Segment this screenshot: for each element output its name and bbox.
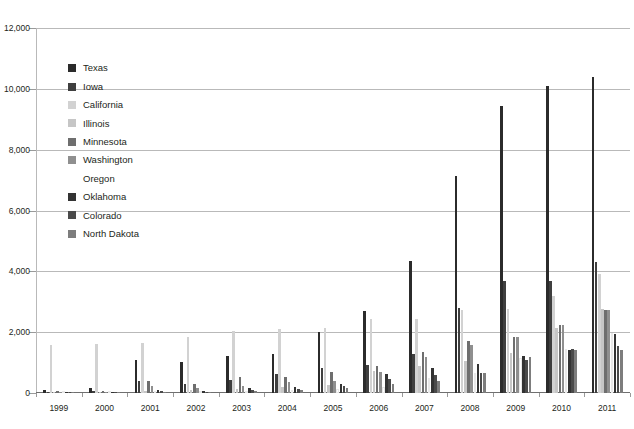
x-axis-tick: [493, 393, 494, 397]
legend-item[interactable]: Oklahoma: [68, 188, 186, 206]
legend-item[interactable]: Washington: [68, 151, 186, 169]
legend-swatch-icon: [68, 119, 76, 127]
x-axis-label: 1999: [49, 403, 68, 413]
legend-item[interactable]: Oregon: [68, 169, 186, 187]
legend-swatch-icon: [68, 138, 76, 146]
legend-item[interactable]: Texas: [68, 59, 186, 77]
legend-item-label: California: [83, 100, 123, 110]
x-axis-label: 2005: [324, 403, 343, 413]
x-axis-tick: [82, 393, 83, 397]
x-axis-label: 2000: [95, 403, 114, 413]
x-axis-label: 2010: [552, 403, 571, 413]
legend-item-label: Colorado: [83, 211, 122, 221]
legend-item-label: Texas: [83, 63, 108, 73]
legend-swatch-icon: [68, 64, 76, 72]
bar: [620, 350, 623, 393]
y-axis-label: 0: [0, 388, 30, 398]
x-axis-tick: [402, 393, 403, 397]
x-axis-tick: [539, 393, 540, 397]
x-axis-label: 2007: [415, 403, 434, 413]
legend-swatch-icon: [68, 156, 76, 164]
chart-legend: TexasIowaCaliforniaIllinoisMinnesotaWash…: [68, 59, 186, 243]
legend-item-label: Illinois: [83, 119, 109, 129]
legend-swatch-icon: [68, 83, 76, 91]
legend-item-label: Oklahoma: [83, 192, 126, 202]
legend-item[interactable]: California: [68, 96, 186, 114]
legend-item-label: Minnesota: [83, 137, 127, 147]
legend-item-label: North Dakota: [83, 229, 139, 239]
x-axis-tick: [36, 393, 37, 397]
legend-swatch-icon: [68, 211, 76, 219]
legend-swatch-icon: [68, 101, 76, 109]
x-axis-tick: [264, 393, 265, 397]
legend-swatch-icon: [68, 175, 76, 183]
x-axis-tick: [127, 393, 128, 397]
x-axis-label: 2001: [141, 403, 160, 413]
y-axis-label: 6,000: [0, 206, 30, 216]
bar-chart: 02,0004,0006,0008,00010,00012,0001999200…: [0, 0, 634, 429]
legend-item-label: Washington: [83, 155, 133, 165]
y-axis-tick: [29, 211, 36, 212]
y-axis-tick: [29, 271, 36, 272]
x-axis-tick: [630, 393, 631, 397]
x-axis-tick: [356, 393, 357, 397]
x-axis-tick: [447, 393, 448, 397]
x-axis-label: 2009: [506, 403, 525, 413]
legend-item[interactable]: North Dakota: [68, 225, 186, 243]
legend-item-label: Oregon: [83, 174, 115, 184]
y-axis-tick: [29, 89, 36, 90]
y-axis-label: 8,000: [0, 145, 30, 155]
legend-swatch-icon: [68, 193, 76, 201]
x-axis-label: 2011: [598, 403, 616, 413]
x-axis-tick: [310, 393, 311, 397]
y-axis-tick: [29, 150, 36, 151]
legend-item[interactable]: Iowa: [68, 77, 186, 95]
legend-item-label: Iowa: [83, 82, 103, 92]
y-axis-label: 10,000: [0, 84, 30, 94]
legend-item[interactable]: Illinois: [68, 114, 186, 132]
y-axis-tick: [29, 393, 36, 394]
x-axis-label: 2008: [461, 403, 480, 413]
x-axis-tick: [584, 393, 585, 397]
y-axis-tick: [29, 332, 36, 333]
legend-item[interactable]: Minnesota: [68, 133, 186, 151]
x-axis-label: 2004: [278, 403, 297, 413]
x-axis-tick: [173, 393, 174, 397]
y-axis-label: 4,000: [0, 266, 30, 276]
y-axis-label: 12,000: [0, 23, 30, 33]
legend-item[interactable]: Colorado: [68, 206, 186, 224]
x-axis-label: 2003: [232, 403, 251, 413]
x-axis-tick: [219, 393, 220, 397]
x-axis-label: 2002: [186, 403, 205, 413]
y-axis-label: 2,000: [0, 327, 30, 337]
x-axis-label: 2006: [369, 403, 388, 413]
y-axis-tick: [29, 28, 36, 29]
legend-swatch-icon: [68, 230, 76, 238]
